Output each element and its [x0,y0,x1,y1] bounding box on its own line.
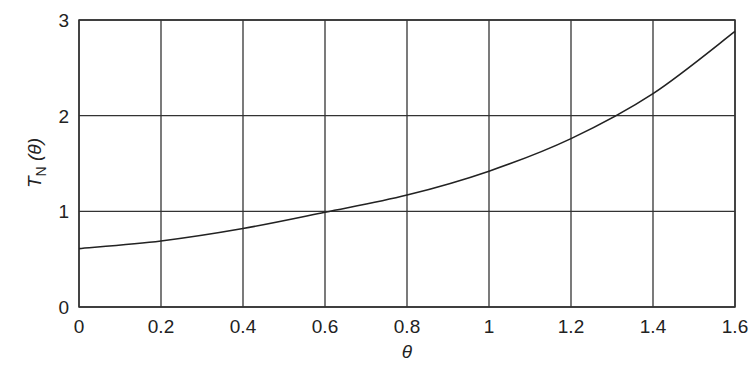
x-tick-label: 0.4 [230,316,257,337]
x-axis-label: θ [402,341,413,362]
x-tick-label: 0.8 [394,316,420,337]
y-axis-label: TN (θ) [24,138,49,188]
grid-lines [79,20,735,307]
x-tick-label: 1 [484,316,495,337]
y-tick-label: 0 [58,297,69,318]
chart: 00.20.40.60.811.21.41.6 0123 θ TN (θ) [0,0,756,382]
x-tick-label: 1.6 [722,316,748,337]
y-tick-label: 2 [58,106,69,127]
x-tick-label: 0 [74,316,85,337]
y-tick-label: 1 [58,201,69,222]
x-tick-label: 0.6 [312,316,338,337]
x-axis-ticks: 00.20.40.60.811.21.41.6 [74,316,749,337]
y-tick-label: 3 [58,10,69,31]
y-axis-ticks: 0123 [58,10,69,318]
x-tick-label: 1.4 [640,316,667,337]
x-tick-label: 1.2 [558,316,584,337]
x-tick-label: 0.2 [148,316,174,337]
